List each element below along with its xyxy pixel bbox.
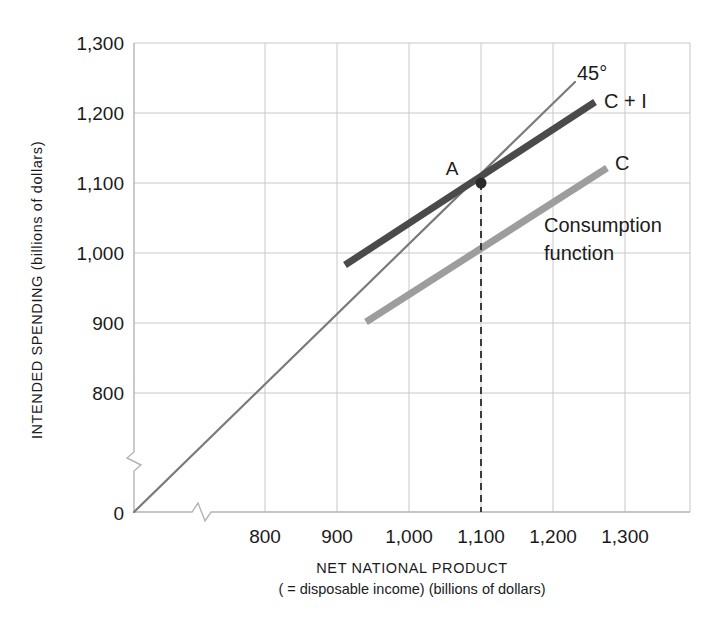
- y-tick-label-900: 900: [92, 313, 124, 334]
- series-label-c: C: [615, 152, 629, 174]
- x-tick-label-1100: 1,100: [457, 526, 505, 547]
- y-tick-label-1200: 1,200: [76, 103, 124, 124]
- equilibrium-point-marker: [476, 178, 487, 189]
- y-tick-label-1100: 1,100: [76, 173, 124, 194]
- x-tick-label-1300: 1,300: [601, 526, 649, 547]
- equilibrium-point-label: A: [446, 158, 459, 179]
- origin-label: 0: [113, 503, 124, 524]
- chart-canvas: 1,300 1,200 1,100 1,000 900 800 0 800 90…: [0, 0, 722, 622]
- x-tick-label-1200: 1,200: [529, 526, 577, 547]
- y-axis-title: INTENDED SPENDING (billions of dollars): [29, 141, 45, 439]
- series-label-c-plus-i: C + I: [604, 90, 647, 112]
- consumption-function-label-line2: function: [544, 242, 614, 264]
- x-axis-title: NET NATIONAL PRODUCT: [316, 560, 507, 576]
- y-tick-label-1300: 1,300: [76, 33, 124, 54]
- keynesian-cross-figure: 1,300 1,200 1,100 1,000 900 800 0 800 90…: [0, 0, 722, 622]
- x-tick-label-800: 800: [249, 526, 281, 547]
- consumption-function-label-line1: Consumption: [544, 214, 662, 236]
- x-tick-label-900: 900: [321, 526, 353, 547]
- y-tick-label-1000: 1,000: [76, 243, 124, 264]
- y-tick-label-800: 800: [92, 383, 124, 404]
- series-label-45-degree: 45°: [577, 62, 607, 84]
- x-axis-subtitle: ( = disposable income) (billions of doll…: [278, 581, 545, 597]
- x-tick-label-1000: 1,000: [385, 526, 433, 547]
